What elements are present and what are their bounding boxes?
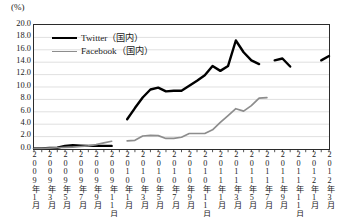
y-tick-label: 16.0	[1, 45, 31, 53]
y-tick-label: 0.0	[1, 144, 31, 152]
y-tick-label: 10.0	[1, 82, 31, 90]
x-tick-label: 2010年7月	[168, 150, 178, 209]
legend: Twitter（国内） Facebook（国内）	[52, 33, 153, 56]
line-chart: (%) 20.018.016.014.012.010.08.06.04.02.0…	[0, 0, 344, 217]
y-axis-tick-labels: 20.018.016.014.012.010.08.06.04.02.00.0	[0, 0, 31, 217]
x-tick-label: 2010年3月	[137, 150, 147, 209]
x-tick-label: 2009年11月	[106, 150, 116, 217]
x-tick-label: 2009年9月	[90, 150, 100, 209]
legend-item-facebook[interactable]: Facebook（国内）	[52, 46, 153, 56]
y-tick-label: 18.0	[1, 32, 31, 40]
y-tick-label: 12.0	[1, 69, 31, 77]
x-axis-tick-labels: 2009年1月2009年3月2009年5月2009年7月2009年9月2009年…	[33, 150, 328, 216]
legend-label-facebook: Facebook（国内）	[81, 46, 153, 56]
x-tick-label: 2009年1月	[28, 150, 38, 209]
x-tick-label: 2009年5月	[59, 150, 69, 209]
x-tick-label: 2010年1月	[121, 150, 131, 209]
x-tick-label: 2009年3月	[44, 150, 54, 209]
x-tick-label: 2011年1月	[214, 150, 224, 209]
series-line	[321, 56, 329, 60]
x-tick-label: 2009年7月	[75, 150, 85, 209]
x-tick-label: 2012年3月	[323, 150, 333, 209]
x-tick-label: 2011年7月	[261, 150, 271, 209]
y-tick-label: 8.0	[1, 94, 31, 102]
x-tick-label: 2012年1月	[307, 150, 317, 209]
y-tick-label: 2.0	[1, 131, 31, 139]
x-tick-label: 2010年11月	[199, 150, 209, 217]
legend-swatch-twitter	[52, 37, 77, 39]
y-tick-label: 4.0	[1, 119, 31, 127]
x-tick-label: 2011年11月	[292, 150, 302, 217]
x-tick-label: 2011年9月	[276, 150, 286, 209]
legend-swatch-facebook	[52, 51, 77, 52]
y-tick-label: 20.0	[1, 20, 31, 28]
x-tick-label: 2011年3月	[230, 150, 240, 209]
legend-label-twitter: Twitter（国内）	[81, 33, 143, 43]
x-tick-label: 2010年9月	[183, 150, 193, 209]
series-line	[275, 58, 291, 66]
legend-item-twitter[interactable]: Twitter（国内）	[52, 33, 153, 43]
y-tick-label: 14.0	[1, 57, 31, 65]
x-tick-label: 2010年5月	[152, 150, 162, 209]
x-tick-label: 2011年5月	[245, 150, 255, 209]
series-line	[127, 98, 267, 141]
y-tick-label: 6.0	[1, 107, 31, 115]
